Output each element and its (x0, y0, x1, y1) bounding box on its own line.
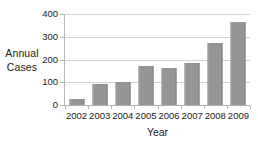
x-tick-label-2002: 2002 (66, 110, 87, 121)
y-tick-label-0: 0 (32, 100, 58, 110)
bars-container (65, 14, 250, 105)
y-tick-0 (60, 105, 64, 106)
y-tick-label-200: 200 (32, 55, 58, 65)
x-tick (134, 106, 135, 109)
bar-slot (111, 14, 134, 105)
x-tick-label-2007: 2007 (182, 110, 203, 121)
y-tick-200 (60, 60, 64, 61)
x-axis-title: Year (65, 126, 250, 139)
bar-slot (181, 14, 204, 105)
y-tick-100 (60, 82, 64, 83)
x-tick-label-2003: 2003 (89, 110, 110, 121)
bar-2009 (231, 22, 246, 105)
bar-2004 (115, 82, 130, 105)
y-tick-300 (60, 37, 64, 38)
bar-2006 (162, 68, 177, 105)
bar-2005 (138, 66, 153, 105)
x-tick (250, 106, 251, 109)
bar-slot (65, 14, 88, 105)
bar-2003 (92, 84, 107, 105)
x-tick-label-2009: 2009 (228, 110, 249, 121)
x-tick (111, 106, 112, 109)
bar-chart: Annual Cases 0100200300400 2002200320042… (0, 0, 258, 147)
bar-2008 (208, 43, 223, 105)
bar-2007 (185, 63, 200, 105)
x-tick (88, 106, 89, 109)
x-tick-label-2005: 2005 (135, 110, 156, 121)
x-tick-label-2004: 2004 (112, 110, 133, 121)
x-tick-label-2006: 2006 (158, 110, 179, 121)
x-tick (204, 106, 205, 109)
y-tick-label-400: 400 (32, 9, 58, 19)
bar-slot (134, 14, 157, 105)
x-tick (227, 106, 228, 109)
x-tick (158, 106, 159, 109)
y-tick-400 (60, 14, 64, 15)
bar-slot (227, 14, 250, 105)
y-tick-label-300: 300 (32, 32, 58, 42)
bar-slot (88, 14, 111, 105)
y-axis-tick-labels: 0100200300400 (30, 0, 58, 147)
bar-slot (158, 14, 181, 105)
y-tick-label-100: 100 (32, 77, 58, 87)
x-tick (65, 106, 66, 109)
bar-slot (204, 14, 227, 105)
x-tick-label-2008: 2008 (205, 110, 226, 121)
x-tick (181, 106, 182, 109)
